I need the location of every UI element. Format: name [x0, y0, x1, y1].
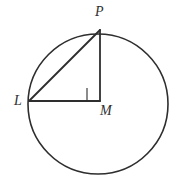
vertex-label-p: P [95, 5, 104, 19]
right-angle-marker [87, 88, 100, 101]
geometry-figure: P L M [0, 0, 179, 187]
geometry-canvas [0, 0, 179, 187]
circle-shape [28, 34, 168, 174]
vertex-label-m: M [100, 104, 112, 118]
vertex-label-l: L [14, 94, 22, 108]
